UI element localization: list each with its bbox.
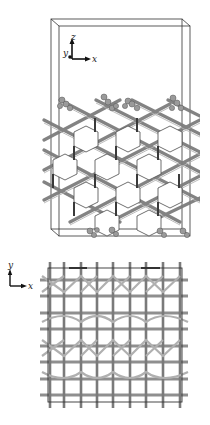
axis-indicator-xyz: z y x [62,32,97,64]
side-view-diagram: z y x [0,0,210,245]
lattice-grid [40,262,188,408]
axis-indicator-xy: y x [7,260,33,291]
top-view-diagram: y x [0,245,210,425]
axis-label-y: y [7,260,14,270]
axis-label-y: y [62,48,69,58]
crystal-slab [44,100,200,236]
top-view-panel: y x [0,245,210,425]
axis-label-z: z [70,32,76,42]
side-view-panel: z y x [0,0,210,245]
axis-label-x: x [28,281,33,291]
axis-label-x: x [92,54,97,64]
